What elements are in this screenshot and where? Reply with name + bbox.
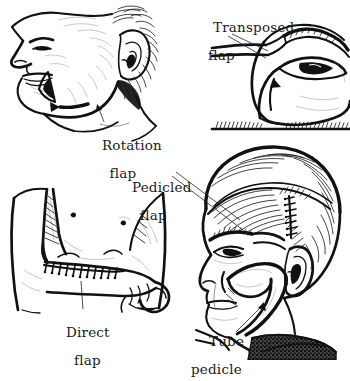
label-pedicled-flap-line2: flap (114, 208, 192, 222)
label-tube-pedicle: Tube pedicle (191, 320, 244, 381)
label-rotation-flap-line1: Rotation (102, 137, 162, 153)
label-pedicled-flap: Pedicled flap (114, 166, 192, 250)
label-transposed-flap: Transposed flap (195, 6, 294, 90)
label-direct-flap: Direct flap (48, 311, 110, 381)
label-tube-pedicle-line2: pedicle (191, 362, 244, 376)
label-transposed-flap-line1: Transposed (213, 19, 294, 35)
label-direct-flap-line2: flap (48, 353, 110, 367)
label-direct-flap-line1: Direct (66, 324, 110, 340)
label-pedicled-flap-line1: Pedicled (132, 179, 192, 195)
label-tube-pedicle-line1: Tube (209, 333, 244, 349)
label-transposed-flap-line2: flap (195, 48, 294, 62)
